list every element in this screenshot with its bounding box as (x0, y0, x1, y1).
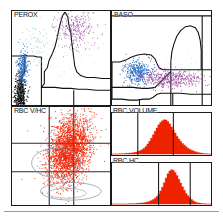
rbc-hc-histogram (112, 163, 211, 205)
baso-cytogram (112, 11, 211, 105)
panel-rbc-vhc-label: RBC V/HC (14, 107, 46, 114)
panel-rbc-hc[interactable] (111, 162, 212, 206)
cytogram-report: PEROX BASO RBC V/HC RBC VOLUME RBC HC (0, 0, 223, 219)
panel-perox[interactable] (11, 10, 111, 106)
panel-rbc-volume[interactable] (111, 112, 212, 156)
panel-baso[interactable] (111, 10, 212, 106)
footer-divider (4, 211, 219, 212)
panel-rbc-volume-label: RBC VOLUME (113, 107, 157, 114)
panel-rbc-hc-label: RBC HC (113, 157, 139, 164)
rbc-vhc-cytogram (12, 107, 110, 205)
panel-perox-label: PEROX (14, 11, 38, 18)
panel-baso-label: BASO (114, 11, 133, 18)
perox-cytogram (12, 11, 110, 105)
panel-rbc-vhc[interactable] (11, 106, 111, 206)
rbc-volume-histogram (112, 113, 211, 155)
